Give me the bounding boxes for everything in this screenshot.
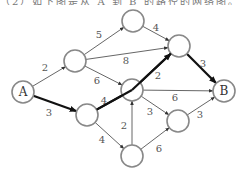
node-N7	[121, 145, 143, 167]
node-label: A	[18, 85, 28, 99]
node-N1	[64, 50, 86, 72]
edge-A-N1	[32, 67, 65, 87]
node-N6	[167, 110, 189, 132]
edge-weight-label: 5	[96, 29, 102, 40]
edge-weight-label: 2	[42, 62, 48, 73]
edge-weight-label: 2	[155, 70, 161, 81]
edge-weight-label: 6	[156, 143, 162, 154]
edge-N1-N2	[84, 27, 124, 55]
node-circle	[76, 104, 98, 126]
network-graph: 258643423633246 AB	[0, 0, 244, 179]
node-circle	[64, 50, 86, 72]
edge-weight-label: 6	[172, 92, 178, 103]
node-label: B	[220, 84, 229, 98]
edge-N5-B	[143, 90, 213, 91]
node-N4	[76, 104, 98, 126]
nodes-layer: AB	[12, 10, 235, 167]
edge-N1-N5	[85, 66, 122, 85]
node-A: A	[12, 81, 34, 103]
edge-weight-label: 6	[94, 75, 100, 86]
bold-path-segment	[132, 54, 171, 90]
edge-weight-label: 4	[99, 134, 105, 145]
edge-weight-label: 8	[123, 55, 129, 66]
node-B: B	[213, 80, 235, 102]
node-circle	[122, 10, 144, 32]
edge-weight-label: 3	[200, 58, 206, 69]
edge-weight-label: 3	[197, 109, 203, 120]
node-circle	[121, 145, 143, 167]
node-N2	[122, 10, 144, 32]
node-circle	[167, 110, 189, 132]
edge-weight-label: 3	[46, 107, 52, 118]
edge-A-N4	[33, 96, 76, 112]
edge-weight-label: 3	[147, 106, 153, 117]
edge-N5-N6	[141, 96, 169, 115]
edge-weight-label: 4	[153, 22, 159, 33]
node-N3	[168, 35, 190, 57]
node-circle	[168, 35, 190, 57]
edge-weight-label: 2	[121, 120, 127, 131]
